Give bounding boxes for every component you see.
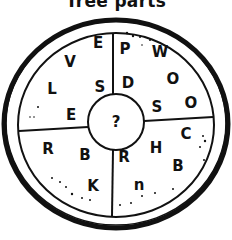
wheel-letter: R	[118, 150, 130, 165]
wheel-letter: E	[93, 36, 103, 51]
wheel-letter: n	[134, 178, 145, 193]
wheel-letter: B	[79, 148, 90, 163]
wheel-letter: H	[150, 141, 163, 156]
wheel-letter: S	[152, 100, 163, 115]
wheel-letter: E	[66, 108, 76, 123]
wheel-letter: O	[185, 96, 198, 111]
wheel-letter: B	[172, 159, 183, 174]
wheel-letter: L	[47, 82, 57, 97]
wheel-letter: D	[122, 76, 134, 91]
wheel-letter: O	[167, 72, 180, 87]
wheel-letter: S	[95, 80, 106, 95]
wheel-letter: P	[120, 42, 131, 57]
wheel-letter: K	[87, 179, 99, 194]
wheel-letter: V	[64, 55, 76, 70]
wheel-letter: W	[152, 45, 169, 60]
wheel-letter: C	[180, 127, 191, 142]
center-question-mark: ?	[112, 115, 121, 130]
wheel-letter: R	[42, 142, 54, 157]
